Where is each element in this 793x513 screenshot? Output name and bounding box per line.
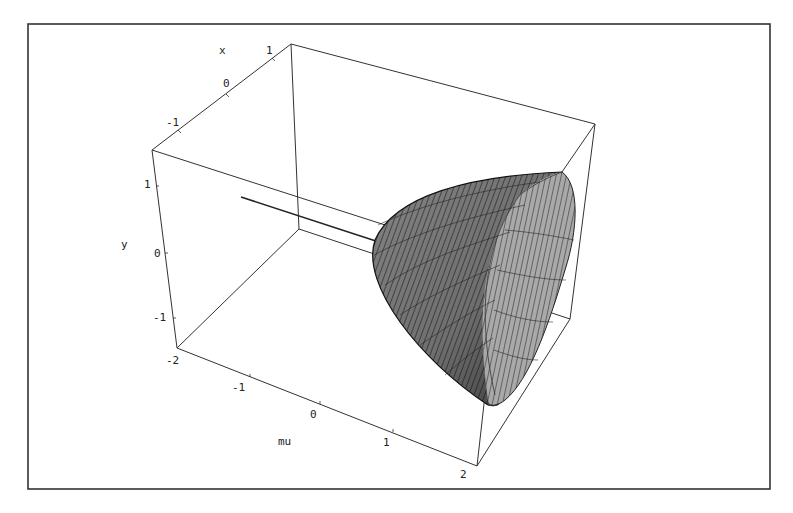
mu-axis-label: mu (278, 435, 291, 448)
mu-tick-label: 0 (310, 408, 317, 421)
paraboloid-surface (373, 172, 575, 406)
x-axis-ticks (178, 58, 275, 133)
y-tick-label: 0 (154, 247, 161, 260)
y-tick-label: 1 (144, 178, 151, 191)
mu-tick-label: -2 (166, 354, 179, 367)
mu-axis-line (241, 197, 385, 244)
y-tick-label: -1 (153, 311, 166, 324)
x-tick-label: -1 (166, 116, 179, 129)
x-tick-label: 0 (223, 77, 230, 90)
x-tick-label: 1 (266, 44, 273, 57)
mu-axis-ticks (250, 374, 393, 432)
x-axis-label: x (219, 44, 226, 57)
mu-tick-label: 1 (383, 436, 390, 449)
y-axis-label: y (121, 238, 128, 251)
surface-plot: x y mu -1 0 1 1 0 -1 -2 -1 0 1 2 (0, 0, 793, 513)
mu-tick-label: -1 (232, 381, 245, 394)
mu-tick-label: 2 (460, 468, 467, 481)
